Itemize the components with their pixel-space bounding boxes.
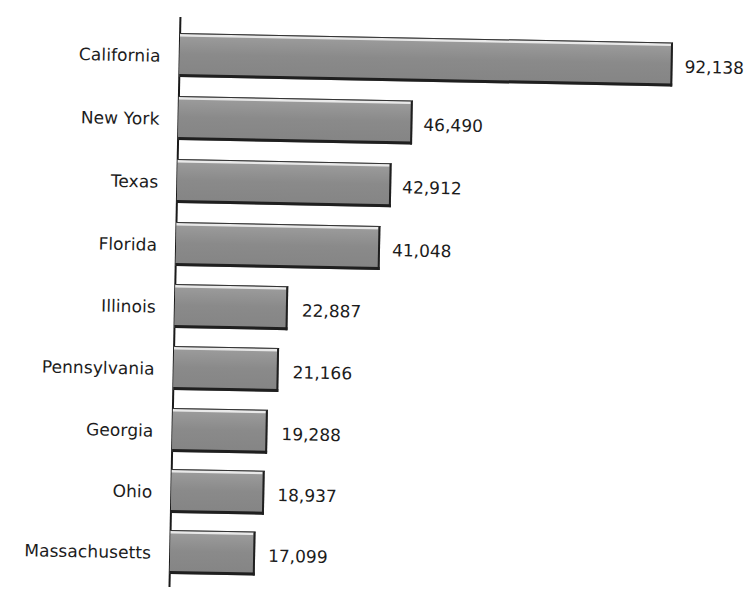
bar (172, 408, 268, 454)
bar (176, 222, 381, 270)
category-label: Texas (111, 171, 159, 192)
category-label: New York (81, 107, 160, 129)
category-label: California (79, 44, 161, 66)
category-label: Pennsylvania (42, 356, 155, 378)
category-label: Florida (98, 234, 157, 255)
value-label: 92,138 (684, 57, 744, 78)
value-label: 46,490 (423, 115, 483, 136)
bar (170, 530, 256, 576)
category-label: Massachusetts (24, 540, 151, 562)
bar-row: Georgia 19,288 (0, 405, 733, 467)
bar (179, 33, 673, 86)
bar-row: Illinois 22,887 (0, 281, 735, 343)
value-label: 21,166 (292, 362, 352, 383)
value-label: 41,048 (392, 240, 452, 261)
bar-row: Ohio 18,937 (0, 466, 732, 528)
category-label: Illinois (101, 296, 156, 317)
bar (177, 159, 392, 207)
bar-row: Pennsylvania 21,166 (0, 343, 734, 405)
value-label: 42,912 (402, 177, 462, 198)
value-label: 18,937 (277, 485, 337, 506)
bar (178, 96, 413, 144)
category-label: Georgia (86, 419, 154, 440)
horizontal-bar-chart: California 92,138 New York 46,490 Texas … (0, 0, 741, 611)
category-label: Ohio (112, 481, 152, 502)
bar-row: Florida 41,048 (1, 219, 737, 281)
value-label: 17,099 (268, 546, 328, 567)
bar-row: New York 46,490 (3, 93, 739, 155)
bar (171, 469, 265, 515)
value-label: 22,887 (302, 300, 362, 321)
bar-row: Texas 42,912 (2, 156, 738, 218)
value-label: 19,288 (281, 424, 341, 445)
bar (174, 284, 288, 330)
bar-row: California 92,138 (4, 30, 740, 92)
bar (173, 346, 279, 392)
bar-row: Massachusetts 17,099 (0, 527, 730, 589)
